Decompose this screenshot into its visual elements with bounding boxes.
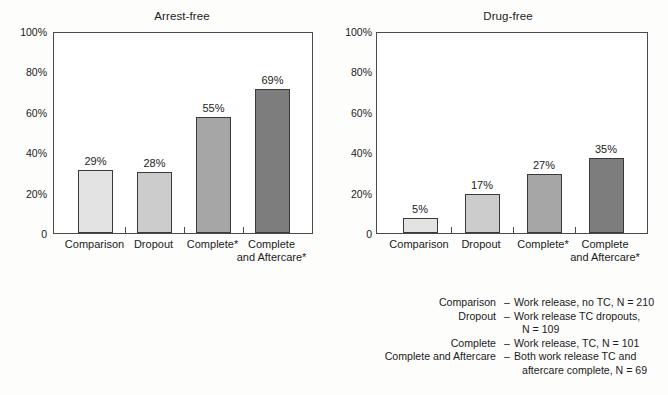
x-axis-tick [575,227,576,233]
x-axis-tick [513,227,514,233]
bar-slot: 55% [196,31,231,233]
legend-description: Both work release TC andaftercare comple… [514,350,664,377]
y-axis-tick-label: 60% [26,108,47,118]
legend-dash: – [504,337,514,351]
bar [589,158,624,233]
bar-value-label: 55% [202,103,224,114]
x-axis-labels-drug-free: ComparisonDropoutComplete*Complete and A… [376,238,648,274]
y-axis-tick-label: 40% [26,148,47,158]
y-axis-tick-label: 80% [26,67,47,77]
y-axis-tick-label: 0 [41,229,47,239]
legend-row: Complete and Aftercare–Both work release… [372,350,664,377]
bar-slot: 27% [527,31,562,233]
x-axis-category-label: Complete and Aftercare* [230,238,313,264]
bar [255,89,290,233]
x-axis-tick [451,227,452,233]
legend-description-continuation: N = 109 [514,323,664,337]
y-axis-tick-label: 20% [351,189,372,199]
legend-description: Work release, no TC, N = 210 [514,296,664,310]
bars-arrest-free: 29%28%55%69% [54,33,312,233]
legend-term: Complete [372,337,504,351]
bar [527,174,562,233]
legend-dash: – [504,350,514,364]
y-axis-tick-label: 20% [26,189,47,199]
legend-term: Dropout [372,310,504,324]
y-axis-tick-label: 80% [351,67,372,77]
y-axis-labels-drug-free: 020%40%60%80%100% [328,32,376,234]
x-axis-tick [243,227,244,233]
chart-title-arrest-free: Arrest-free [0,10,336,22]
legend-term: Comparison [372,296,504,310]
bar-slot: 17% [465,31,500,233]
legend-row: Complete–Work release, TC, N = 101 [372,337,664,351]
y-axis-tick-label: 60% [351,108,372,118]
legend-description: Work release, TC, N = 101 [514,337,664,351]
bar-slot: 28% [137,31,172,233]
bar [403,218,438,233]
bar-slot: 29% [78,31,113,233]
bars-drug-free: 5%17%27%35% [377,33,647,233]
bar-value-label: 35% [595,144,617,155]
bar [196,117,231,233]
y-axis-tick-label: 0 [366,229,372,239]
y-axis-labels-arrest-free: 020%40%60%80%100% [3,32,51,234]
legend-key: Comparison–Work release, no TC, N = 210D… [372,296,664,378]
bar-slot: 35% [589,31,624,233]
bar [137,172,172,233]
legend-description-continuation: aftercare complete, N = 69 [514,364,664,378]
bar-value-label: 69% [261,75,283,86]
bar-value-label: 27% [533,160,555,171]
legend-row: Comparison–Work release, no TC, N = 210 [372,296,664,310]
bar-value-label: 29% [84,156,106,167]
legend-dash: – [504,310,514,324]
x-axis-tick [125,227,126,233]
x-axis-tick [184,227,185,233]
bar [465,194,500,233]
plot-area-arrest-free: 29%28%55%69% [53,32,313,234]
y-axis-tick-label: 100% [345,27,372,37]
x-axis-category-label: Complete and Aftercare* [562,238,648,264]
x-axis-labels-arrest-free: ComparisonDropoutComplete*Complete and A… [53,238,313,274]
legend-dash: – [504,296,514,310]
legend-term: Complete and Aftercare [372,350,504,364]
bar-value-label: 28% [143,158,165,169]
y-axis-tick-label: 40% [351,148,372,158]
bar [78,170,113,233]
bar-slot: 69% [255,31,290,233]
legend-row: Dropout–Work release TC dropouts,N = 109 [372,310,664,337]
bar-value-label: 17% [471,180,493,191]
bar-value-label: 5% [412,204,428,215]
y-axis-tick-label: 100% [20,27,47,37]
legend-description: Work release TC dropouts,N = 109 [514,310,664,337]
plot-area-drug-free: 5%17%27%35% [376,32,648,234]
bar-slot: 5% [403,31,438,233]
chart-title-drug-free: Drug-free [330,10,668,22]
